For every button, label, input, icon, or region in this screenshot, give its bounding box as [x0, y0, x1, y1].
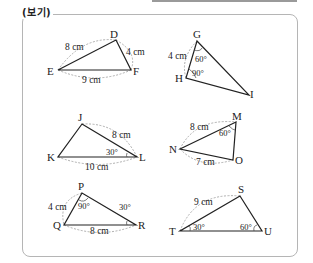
length-NM: 8 cm — [190, 122, 209, 132]
vertex-N: N — [169, 143, 177, 155]
vertex-S: S — [238, 183, 244, 195]
angle-U: 60° — [240, 222, 252, 232]
vertex-D: D — [110, 28, 118, 40]
vertex-P: P — [78, 180, 84, 192]
vertex-T: T — [169, 225, 176, 237]
vertex-O: O — [235, 154, 243, 166]
length-TS: 9 cm — [194, 197, 213, 207]
vertex-L: L — [139, 151, 146, 163]
vertex-F: F — [133, 65, 139, 77]
vertex-R: R — [138, 219, 146, 231]
length-EF: 9 cm — [82, 75, 101, 85]
vertex-K: K — [47, 151, 55, 163]
angle-P: 90° — [78, 201, 90, 211]
length-PQ: 4 cm — [48, 202, 67, 212]
angle-M: 60° — [219, 128, 231, 138]
vertex-E: E — [47, 65, 54, 77]
length-GH: 4 cm — [168, 51, 187, 61]
vertex-Q: Q — [53, 219, 61, 231]
length-QR: 8 cm — [90, 226, 109, 236]
angle-G: 60° — [195, 54, 207, 64]
length-KL: 10 cm — [85, 162, 109, 172]
triangles-figure: D E F G H I J K L M N O P Q R S T U 8 cm… — [0, 0, 313, 263]
length-JL: 8 cm — [112, 130, 131, 140]
length-ED: 8 cm — [65, 42, 84, 52]
vertex-J: J — [78, 111, 83, 123]
vertex-U: U — [264, 225, 272, 237]
angle-T: 30° — [193, 222, 205, 232]
vertex-G: G — [193, 28, 201, 40]
angle-R: 30° — [119, 202, 131, 212]
vertex-M: M — [232, 110, 242, 122]
angle-L: 30° — [106, 147, 118, 157]
length-DF: 4 cm — [126, 47, 145, 57]
angle-H: 90° — [192, 68, 204, 78]
vertex-I: I — [250, 88, 254, 100]
vertex-H: H — [175, 72, 183, 84]
length-NO: 7 cm — [196, 157, 215, 167]
